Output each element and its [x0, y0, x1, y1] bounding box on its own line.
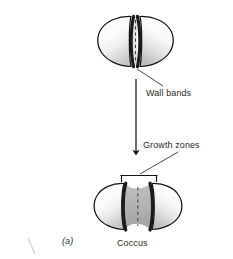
top-cell-wall-band-right	[137, 16, 139, 67]
panel-letter-label: (a)	[62, 236, 73, 246]
coccus-cell-division-figure: Wall bands Growth zones Coccus (a)	[0, 0, 233, 259]
coccus-caption: Coccus	[117, 238, 148, 248]
top-cell-right-lobe	[140, 16, 173, 66]
top-coccus-cell	[98, 16, 174, 67]
scan-artifact-mark	[28, 238, 35, 254]
bottom-coccus-cell	[94, 183, 182, 230]
wall-bands-leader-line	[137, 69, 163, 86]
top-cell-left-lobe	[98, 16, 131, 66]
growth-zones-bracket	[121, 176, 157, 182]
growth-zones-leader-line	[140, 152, 178, 174]
figure-vector-graphics	[0, 0, 233, 259]
wall-bands-label: Wall bands	[146, 88, 191, 98]
bottom-cell-left-lobe	[94, 183, 124, 229]
bottom-cell-right-lobe	[152, 183, 182, 229]
growth-zones-label: Growth zones	[143, 140, 200, 150]
